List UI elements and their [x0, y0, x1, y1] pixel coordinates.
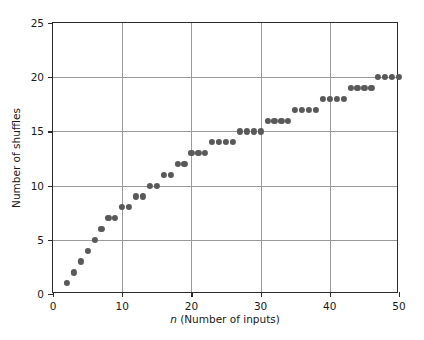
data-point — [237, 128, 243, 134]
y-tick-label: 0 — [37, 288, 44, 300]
data-point — [64, 280, 70, 286]
data-point — [71, 269, 77, 275]
data-point — [98, 226, 104, 232]
data-point — [389, 74, 395, 80]
data-point — [313, 107, 319, 113]
data-point — [140, 193, 146, 199]
data-point — [112, 215, 118, 221]
x-tick-label: 40 — [323, 300, 336, 312]
data-point — [251, 128, 257, 134]
data-point — [354, 85, 360, 91]
y-axis-title-label: Number of shuffles — [10, 108, 22, 208]
x-tick-mark — [399, 292, 400, 297]
gridline-vertical — [261, 23, 262, 292]
y-tick-mark — [48, 186, 53, 187]
data-point — [174, 161, 180, 167]
data-point — [264, 117, 270, 123]
x-axis-title: n (Number of inputs) — [52, 313, 398, 325]
data-point — [91, 237, 97, 243]
data-point — [154, 183, 160, 189]
y-tick-mark — [48, 131, 53, 132]
data-point — [209, 139, 215, 145]
x-tick-mark — [122, 292, 123, 297]
x-tick-label: 50 — [392, 300, 405, 312]
data-point — [133, 193, 139, 199]
data-point — [306, 107, 312, 113]
x-tick-label: 20 — [185, 300, 198, 312]
gridline-horizontal — [53, 240, 397, 241]
data-point — [105, 215, 111, 221]
scatter-chart-figure: 051015202501020304050 Number of shuffles… — [0, 0, 424, 340]
y-tick-label: 25 — [31, 17, 44, 29]
data-point — [396, 74, 402, 80]
data-point — [320, 96, 326, 102]
data-point — [361, 85, 367, 91]
gridline-vertical — [330, 23, 331, 292]
gridline-horizontal — [53, 186, 397, 187]
gridline-vertical — [122, 23, 123, 292]
x-axis-title-label: (Number of inputs) — [177, 313, 280, 325]
data-point — [278, 117, 284, 123]
data-point — [126, 204, 132, 210]
plot-area: 051015202501020304050 — [52, 22, 398, 293]
y-tick-mark — [48, 240, 53, 241]
data-point — [78, 258, 84, 264]
data-point — [188, 150, 194, 156]
data-point — [299, 107, 305, 113]
y-tick-label: 5 — [37, 234, 44, 246]
data-point — [119, 204, 125, 210]
data-point — [223, 139, 229, 145]
x-tick-label: 0 — [50, 300, 57, 312]
data-point — [327, 96, 333, 102]
x-tick-label: 10 — [116, 300, 129, 312]
y-tick-label: 20 — [31, 71, 44, 83]
x-tick-mark — [191, 292, 192, 297]
data-point — [292, 107, 298, 113]
x-tick-mark — [330, 292, 331, 297]
data-point — [368, 85, 374, 91]
gridline-horizontal — [53, 77, 397, 78]
data-point — [85, 248, 91, 254]
data-point — [285, 117, 291, 123]
data-point — [347, 85, 353, 91]
data-point — [382, 74, 388, 80]
data-point — [216, 139, 222, 145]
gridline-vertical — [191, 23, 192, 292]
x-tick-mark — [53, 292, 54, 297]
x-tick-mark — [261, 292, 262, 297]
y-tick-mark — [48, 23, 53, 24]
data-point — [341, 96, 347, 102]
data-point — [230, 139, 236, 145]
data-point — [161, 172, 167, 178]
gridline-horizontal — [53, 131, 397, 132]
y-axis-title: Number of shuffles — [9, 22, 23, 293]
x-axis-title-variable: n — [170, 313, 177, 325]
data-point — [244, 128, 250, 134]
data-point — [202, 150, 208, 156]
data-point — [271, 117, 277, 123]
data-point — [181, 161, 187, 167]
data-point — [334, 96, 340, 102]
data-point — [147, 183, 153, 189]
x-tick-label: 30 — [254, 300, 267, 312]
y-tick-label: 15 — [31, 125, 44, 137]
data-point — [168, 172, 174, 178]
data-point — [258, 128, 264, 134]
data-point — [375, 74, 381, 80]
y-tick-mark — [48, 77, 53, 78]
data-point — [195, 150, 201, 156]
y-tick-label: 10 — [31, 180, 44, 192]
